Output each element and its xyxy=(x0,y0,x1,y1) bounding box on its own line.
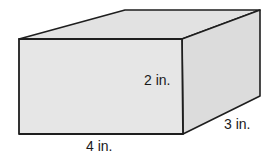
prism-drawing xyxy=(0,0,271,160)
prism-diagram: 2 in. 3 in. 4 in. xyxy=(0,0,271,160)
depth-label: 3 in. xyxy=(224,117,250,131)
height-label: 2 in. xyxy=(144,73,170,87)
length-label: 4 in. xyxy=(86,139,112,153)
